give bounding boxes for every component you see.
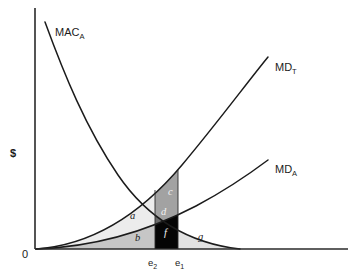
x-tick-e1: e1 — [175, 257, 184, 270]
economics-diagram: MACA MDT MDA $ 0 e2 e1 a b c d f g — [0, 0, 355, 277]
mac-a-label: MACA — [55, 26, 84, 41]
md-a-label: MDA — [275, 163, 297, 178]
y-axis-label: $ — [10, 147, 16, 159]
region-label-d: d — [161, 206, 167, 217]
region-label-a: a — [130, 210, 135, 221]
region-label-g: g — [198, 231, 203, 242]
md-t-label: MDT — [275, 61, 297, 76]
x-tick-e2: e2 — [148, 257, 157, 270]
region-label-c: c — [168, 186, 173, 197]
origin-label: 0 — [22, 248, 28, 260]
region-label-b: b — [135, 232, 140, 243]
